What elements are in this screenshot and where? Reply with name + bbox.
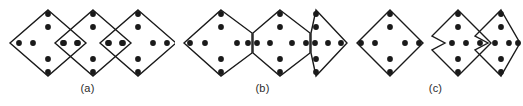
dot-cluster-b — [187, 11, 344, 75]
figure-root: (a) — [0, 0, 523, 106]
diamond-b-2 — [253, 10, 310, 76]
shape-group-a: (a) — [0, 0, 175, 106]
group-b-diagram — [175, 0, 350, 82]
shape-group-c: (c) — [348, 0, 523, 106]
caption-a: (a) — [0, 82, 175, 94]
group-c-diagram — [348, 0, 523, 82]
dot-cluster-a — [16, 11, 170, 75]
shape-group-b: (b) — [175, 0, 350, 106]
diamond-c-1 — [357, 10, 423, 76]
diamond-b-1 — [184, 10, 252, 76]
caption-c: (c) — [348, 82, 523, 94]
group-a-diagram — [0, 0, 175, 82]
dot-cluster-c — [358, 11, 521, 75]
caption-b: (b) — [175, 82, 350, 94]
